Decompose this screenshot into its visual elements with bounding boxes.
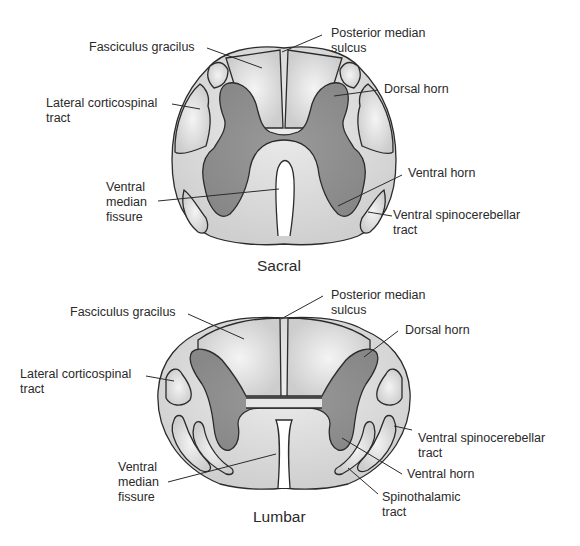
lumbar-label-spinothalamic-tract: Spinothalamic tract <box>382 490 461 520</box>
lumbar-label-ventral-horn: Ventral horn <box>407 467 474 482</box>
lumbar-label-dorsal-horn: Dorsal horn <box>405 323 470 338</box>
sacral-label-ventral-horn: Ventral horn <box>408 166 475 181</box>
lumbar-label-ventral-median-fissure: Ventral median fissure <box>118 460 159 505</box>
sacral-section <box>172 47 396 245</box>
sacral-label-dorsal-horn: Dorsal horn <box>384 82 449 97</box>
lumbar-label-posterior-median-sulcus: Posterior median sulcus <box>331 288 426 318</box>
lumbar-section <box>158 318 410 490</box>
lumbar-title: Lumbar <box>253 508 306 526</box>
sacral-label-ventral-median-fissure: Ventral median fissure <box>106 180 147 225</box>
sacral-label-fasciculus-gracilus: Fasciculus gracilus <box>89 40 195 55</box>
sacral-title: Sacral <box>257 257 301 275</box>
lumbar-label-ventral-spinocerebellar-tract: Ventral spinocerebellar tract <box>418 431 545 461</box>
lumbar-label-fasciculus-gracilus: Fasciculus gracilus <box>70 305 176 320</box>
sacral-label-ventral-spinocerebellar-tract: Ventral spinocerebellar tract <box>393 208 520 238</box>
lumbar-label-lateral-corticospinal-tract: Lateral corticospinal tract <box>20 367 131 397</box>
sacral-label-lateral-corticospinal-tract: Lateral corticospinal tract <box>46 96 157 126</box>
sacral-label-posterior-median-sulcus: Posterior median sulcus <box>331 26 426 56</box>
